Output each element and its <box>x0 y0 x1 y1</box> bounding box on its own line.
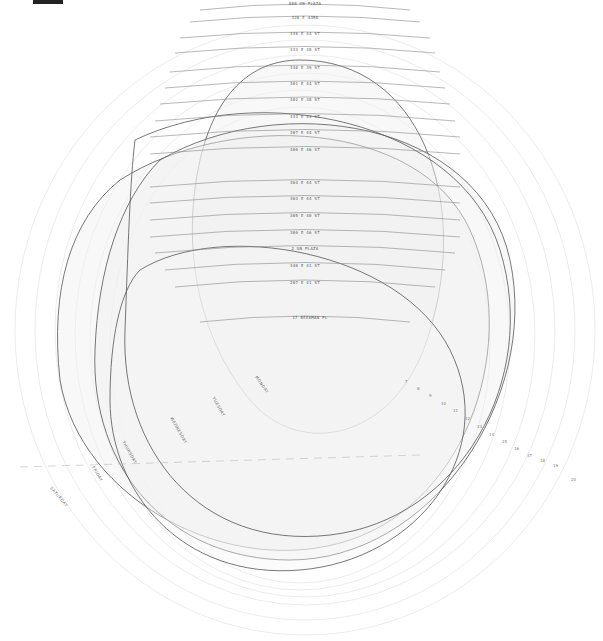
address-label: 17 BEEKMAN PL <box>292 315 327 320</box>
address-label: 304 E 44 ST <box>290 180 320 185</box>
address-label: 300 E 46 ST <box>290 230 320 235</box>
address-label: 301 E 44 ST <box>290 81 320 86</box>
hour-label: 10 <box>441 401 447 406</box>
hour-label: 13 <box>477 424 483 429</box>
hour-label: 15 <box>502 439 508 444</box>
address-label: 333 E 43 ST <box>290 114 320 119</box>
address-label: 330 E 39 ST <box>290 65 320 70</box>
hour-label: 11 <box>453 408 459 413</box>
address-label: 300 E 46 ST <box>290 147 320 152</box>
hour-label: 14 <box>489 432 495 437</box>
address-label: 207 E 41 ST <box>290 280 320 285</box>
day-bands <box>58 60 515 571</box>
hour-label: 16 <box>514 446 520 451</box>
address-label: 333 E 38 ST <box>290 47 320 52</box>
address-label: 2 UN PLAZA <box>291 246 318 251</box>
day-label-saturday: SATURDAY <box>49 485 69 507</box>
hour-label: 17 <box>527 453 533 458</box>
hour-label: 20 <box>571 477 577 482</box>
address-label: 338 E 44 ST <box>290 31 320 36</box>
hour-label: 19 <box>553 463 559 468</box>
address-label: 307 E 44 ST <box>290 130 320 135</box>
address-label: 305 E 40 ST <box>290 213 320 218</box>
arc-chart: 888 UN PLAZA 328 E 43RD 338 E 44 ST 333 … <box>0 0 603 641</box>
address-label: 303 E 44 ST <box>290 196 320 201</box>
address-label: 888 UN PLAZA <box>289 1 322 6</box>
hour-label: 12 <box>465 416 471 421</box>
address-label: 302 E 38 ST <box>290 97 320 102</box>
address-label: 340 E 41 ST <box>290 263 320 268</box>
hour-label: 18 <box>540 458 546 463</box>
address-label: 328 E 43RD <box>291 15 318 20</box>
